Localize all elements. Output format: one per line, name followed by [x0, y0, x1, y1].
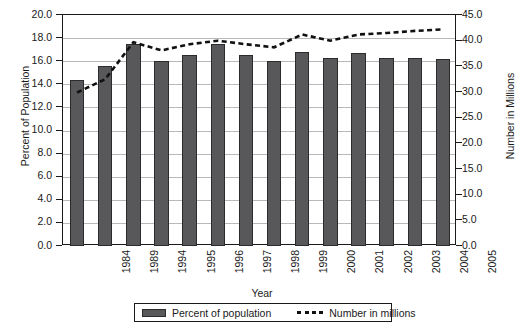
y-axis-label-left: Percent of Population — [19, 36, 31, 196]
y-tick-label-right: 20.0 — [462, 137, 502, 148]
line-series — [63, 15, 457, 246]
y-tick-label-right: 25.0 — [462, 111, 502, 122]
y-tick-label-right: 0.0 — [462, 240, 502, 251]
y-tick-label-left: 0.0 — [0, 240, 52, 251]
x-tick-label: 2005 — [487, 250, 498, 290]
plot-area — [62, 14, 456, 245]
y-tick-mark-left — [56, 245, 62, 246]
line-path — [77, 29, 443, 92]
legend-bar-swatch-icon — [142, 309, 166, 317]
x-tick-label: 2001 — [374, 250, 385, 290]
y-tick-label-right: 30.0 — [462, 86, 502, 97]
x-tick-label: 1996 — [234, 250, 245, 290]
legend-item-percent-of-population[interactable]: Percent of population — [142, 307, 271, 319]
x-tick-label: 1998 — [290, 250, 301, 290]
x-tick-label: 2000 — [346, 250, 357, 290]
chart-container: 0.02.04.06.08.010.012.014.016.018.020.0 … — [0, 0, 524, 328]
legend-label-percent-of-population: Percent of population — [172, 307, 271, 319]
chart-legend: Percent of population Number in millions — [134, 303, 392, 322]
x-tick-label: 1999 — [318, 250, 329, 290]
legend-line-swatch-icon — [297, 309, 323, 317]
y-tick-label-right: 40.0 — [462, 34, 502, 45]
x-tick-label: 2004 — [459, 250, 470, 290]
y-tick-label-right: 5.0 — [462, 214, 502, 225]
y-tick-label-right: 35.0 — [462, 60, 502, 71]
x-tick-label: 1994 — [177, 250, 188, 290]
y-tick-label-right: 15.0 — [462, 163, 502, 174]
y-tick-label-right: 10.0 — [462, 188, 502, 199]
x-tick-label: 1997 — [262, 250, 273, 290]
y-tick-label-left: 20.0 — [0, 9, 52, 20]
x-tick-label: 1984 — [121, 250, 132, 290]
y-tick-label-left: 2.0 — [0, 216, 52, 227]
legend-label-number-in-millions: Number in millions — [329, 307, 415, 319]
legend-item-number-in-millions[interactable]: Number in millions — [297, 307, 415, 319]
series-layer — [63, 15, 457, 246]
x-tick-label: 2002 — [403, 250, 414, 290]
y-axis-label-right: Number in Millions — [504, 31, 516, 201]
x-tick-label: 1989 — [149, 250, 160, 290]
x-tick-label: 2003 — [431, 250, 442, 290]
x-tick-label: 1995 — [206, 250, 217, 290]
y-tick-label-right: 45.0 — [462, 9, 502, 20]
